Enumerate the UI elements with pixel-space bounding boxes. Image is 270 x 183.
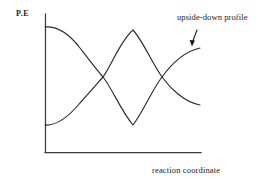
x-axis-label: reaction coordinate — [152, 165, 220, 175]
curve-normal-profile — [45, 27, 200, 125]
annotation-arrow-shaft — [193, 30, 198, 42]
annotation-pointer-group — [190, 30, 197, 47]
y-axis-label: P.E — [16, 9, 29, 18]
potential-energy-figure: P.E reaction coordinate upside-down prof… — [0, 0, 270, 183]
annotation-text: upside-down profile — [177, 12, 248, 22]
figure-canvas — [0, 0, 270, 183]
curve-upside-down-profile — [45, 30, 200, 125]
annotation-arrow-head — [190, 40, 195, 47]
curves-group — [45, 27, 200, 125]
axes-group — [45, 14, 201, 153]
